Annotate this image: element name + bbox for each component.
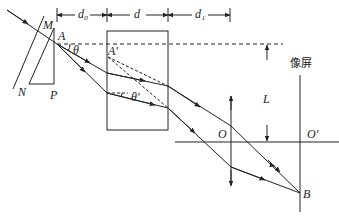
label-o-prime: O′ — [307, 128, 318, 140]
prism — [29, 28, 54, 84]
label-b: B — [303, 188, 310, 200]
label-screen: 像屏 — [290, 58, 312, 69]
label-a-prime: A′ — [108, 45, 118, 57]
label-n: N — [18, 86, 26, 98]
label-p: P — [50, 89, 57, 101]
mirror-mn — [13, 16, 44, 89]
label-o: O — [218, 128, 227, 140]
label-theta-prime: θ′ — [131, 91, 140, 103]
diagram-canvas — [0, 0, 339, 220]
label-d1: d₁ — [195, 8, 205, 20]
label-d: d — [134, 8, 140, 20]
optics-diagram: M A A′ N P θ θ′ d₀ d d₁ L O O′ B 像屏 — [0, 0, 339, 220]
label-theta: θ — [73, 44, 79, 56]
label-a: A — [58, 30, 65, 42]
label-m: M — [43, 19, 53, 31]
label-l: L — [263, 93, 270, 105]
label-d0: d₀ — [78, 8, 88, 20]
